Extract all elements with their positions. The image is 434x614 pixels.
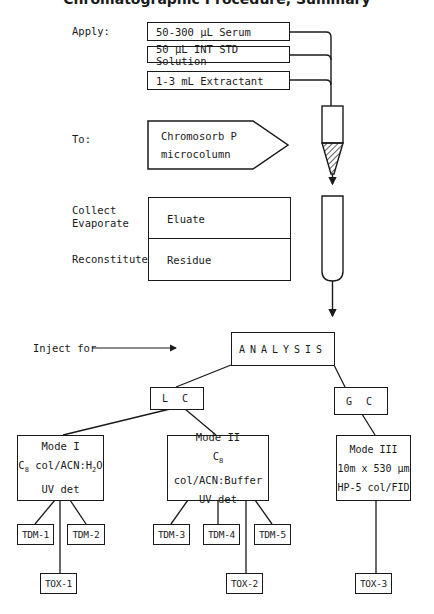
eluate-text: Eluate <box>167 213 205 225</box>
tdm-4-box: TDM-4 <box>203 524 240 545</box>
microcolumn-icon <box>322 106 343 184</box>
chromosorb-text: Chromosorb P <box>161 130 237 143</box>
test-tube-icon <box>322 196 343 316</box>
serum-text: 50-300 µL Serum <box>156 26 251 38</box>
gc-box: G C <box>334 387 388 415</box>
mode-1-box: Mode I C8 col/ACN:H2O UV det <box>17 435 104 501</box>
mode-1-detector: UV det <box>42 480 80 499</box>
mode-3-column: HP-5 col/FID <box>337 478 409 497</box>
lc-text: L C <box>162 393 192 404</box>
extractant-text: 1-3 mL Extractant <box>156 75 263 87</box>
eluate-box: Eluate <box>148 197 291 240</box>
tox-3-box: TOX-3 <box>355 573 392 594</box>
mode-1-column: C8 col/ACN:H2O <box>18 456 102 480</box>
mode-3-dimensions: 10m x 530 µm <box>337 459 409 478</box>
evaporate-label: Evaporate <box>72 217 129 230</box>
mode-2-box: Mode II C8 col/ACN:Buffer UV det <box>167 435 269 501</box>
microcolumn-pentagon <box>147 120 291 172</box>
residue-box: Residue <box>148 238 291 281</box>
mode-3-name: Mode III <box>349 440 397 459</box>
reconstitute-label: Reconstitute <box>72 253 148 266</box>
int-std-box: 50 µL INT STD Solution <box>147 46 290 63</box>
residue-text: Residue <box>167 254 211 266</box>
apply-label: Apply: <box>72 25 110 38</box>
tox-2-box: TOX-2 <box>226 573 263 594</box>
mode-2-detector: UV det <box>199 490 237 509</box>
gc-text: G C <box>346 396 376 407</box>
tox-1-box: TOX-1 <box>40 573 77 594</box>
int-std-text: 50 µL INT STD Solution <box>156 43 289 67</box>
mode-2-name: Mode II <box>196 428 240 447</box>
to-label: To: <box>72 133 91 146</box>
lc-box: L C <box>150 387 204 410</box>
extractant-box: 1-3 mL Extractant <box>147 71 290 90</box>
connector-lines <box>0 0 434 614</box>
serum-box: 50-300 µL Serum <box>147 22 290 41</box>
diagram-title-clipped: Chromatographic Procedure, Summary <box>0 0 434 7</box>
collect-label: Collect <box>72 204 116 217</box>
microcolumn-text: microcolumn <box>161 148 231 161</box>
tdm-1-box: TDM-1 <box>17 524 54 545</box>
tdm-3-box: TDM-3 <box>153 524 190 545</box>
tdm-2-box: TDM-2 <box>67 524 105 545</box>
analysis-text: ANALYSIS <box>239 344 327 355</box>
mode-2-column: C8 col/ACN:Buffer <box>168 447 268 490</box>
mode-1-name: Mode I <box>42 437 80 456</box>
mode-3-box: Mode III 10m x 530 µm HP-5 col/FID <box>336 435 411 501</box>
analysis-box: ANALYSIS <box>231 332 335 366</box>
tdm-5-box: TDM-5 <box>254 524 291 545</box>
inject-label: Inject for <box>33 342 96 355</box>
